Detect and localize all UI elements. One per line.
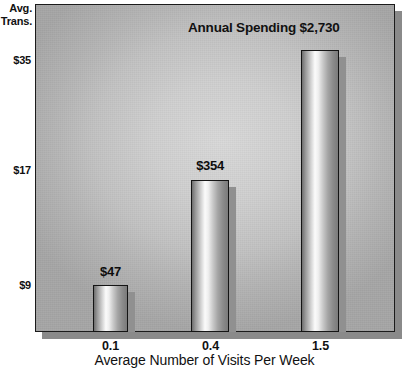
x-tick-label-1: 0.1: [83, 339, 138, 353]
y-tick-label-35: $35: [0, 54, 31, 66]
bar-1: [93, 285, 128, 332]
x-axis-title: Average Number of Visits Per Week: [0, 352, 409, 368]
chart-annotation: Annual Spending $2,730: [188, 20, 340, 35]
x-tick-label-2: 0.4: [183, 339, 238, 353]
x-tick-label-3: 1.5: [293, 339, 348, 353]
bar-chart: Avg. Trans. $35 $17 $9 Annual Spending $…: [0, 0, 409, 368]
y-tick-label-17: $17: [0, 164, 31, 176]
y-axis-title: Avg. Trans.: [0, 2, 32, 28]
y-axis-title-line-1: Avg.: [0, 2, 32, 15]
y-tick-label-9: $9: [0, 279, 31, 291]
bar-2: [191, 180, 229, 332]
bar-value-label-1: $47: [80, 264, 141, 279]
bar-value-label-2: $354: [178, 158, 242, 173]
bar-3: [301, 50, 339, 332]
y-axis-title-line-2: Trans.: [0, 15, 32, 28]
